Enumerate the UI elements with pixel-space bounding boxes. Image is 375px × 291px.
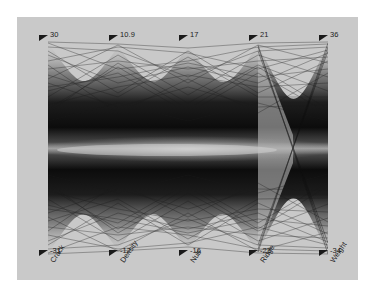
parallel-coordinates-canvas [17, 17, 358, 280]
core-filament-bright [57, 144, 277, 156]
plot-panel: 30 -31 Crack 10.9 -12 Density [17, 17, 358, 280]
parallel-coordinates-figure: 30 -31 Crack 10.9 -12 Density [0, 0, 375, 291]
